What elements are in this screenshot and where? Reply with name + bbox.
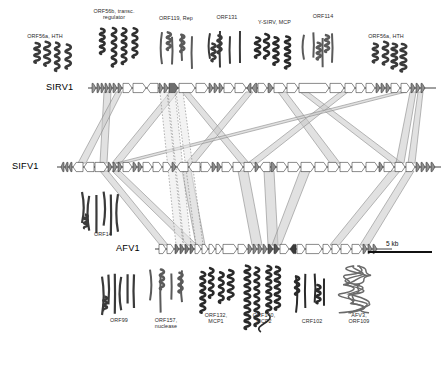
gene-arrow <box>153 162 162 171</box>
helix-ribbon <box>122 28 127 64</box>
scale-bar-label: 5 kb <box>386 240 398 247</box>
struct-orf56a-right <box>373 42 406 72</box>
gene-arrow <box>113 83 117 92</box>
helix-ribbon <box>200 272 205 313</box>
comparative-genome-figure: SIRV1SIFV1AFV1 ORF56a, HTHORF56b, transc… <box>0 0 448 380</box>
helix-ribbon <box>132 28 137 57</box>
beta-strand <box>120 277 122 310</box>
gene-arrow <box>315 162 327 171</box>
protein-label-y-sirv-mcp: Y-SIRV, MCP <box>247 19 302 25</box>
gene-arrow <box>65 162 68 171</box>
struct-orf99 <box>102 274 134 315</box>
struct-orf119 <box>161 32 192 69</box>
gene-arrow <box>352 162 365 171</box>
gene-arrow <box>345 83 355 92</box>
gene-arrow <box>172 162 176 171</box>
gene-arrow <box>381 83 385 92</box>
gene-arrow <box>340 162 351 171</box>
beta-strand <box>313 32 314 57</box>
protein-label-orf56b-transc-regulator: ORF56b, transc. regulator <box>82 8 146 20</box>
gene-arrow <box>180 244 184 253</box>
helix-ribbon <box>273 37 278 64</box>
helix-ribbon <box>266 266 271 312</box>
protein-structure-layer <box>34 28 406 332</box>
gene-arrow <box>196 83 208 92</box>
homology-ribbon <box>238 171 262 245</box>
gene-arrow <box>431 162 435 171</box>
gene-arrow <box>133 162 137 171</box>
gene-arrow <box>268 244 273 253</box>
gene-arrow <box>421 162 425 171</box>
gene-arrow <box>263 244 267 253</box>
gene-arrow <box>426 162 430 171</box>
gene-arrow <box>297 244 305 253</box>
gene-arrow <box>395 162 405 171</box>
gene-arrow <box>366 162 378 171</box>
gene-arrow <box>216 244 222 253</box>
gene-arrow <box>214 83 218 92</box>
gene-arrow <box>109 83 112 92</box>
gene-arrow <box>280 244 289 253</box>
helix-ribbon <box>285 37 290 69</box>
beta-strand <box>161 32 162 64</box>
gene-arrow <box>108 162 112 171</box>
helix-ribbon <box>209 268 213 298</box>
beta-strand <box>133 274 134 308</box>
beta-strand <box>172 37 173 65</box>
helix-ribbon <box>100 29 105 54</box>
gene-arrow <box>379 162 383 171</box>
gene-arrow <box>248 244 252 253</box>
gene-arrow <box>105 83 108 92</box>
genome-name-sirv1: SIRV1 <box>46 82 73 92</box>
gene-arrow <box>328 162 339 171</box>
gene-arrow <box>306 244 322 253</box>
gene-arrow <box>224 83 234 92</box>
struct-orf56b <box>100 28 137 66</box>
helix-ribbon <box>112 28 116 66</box>
gene-arrow <box>411 83 415 92</box>
gene-arrow <box>235 83 246 92</box>
gene-arrow <box>330 83 344 92</box>
gene-arrow <box>95 162 107 171</box>
gene-arrow <box>288 162 300 171</box>
helix-ribbon <box>167 32 171 49</box>
gene-arrow <box>366 83 375 92</box>
gene-arrow <box>247 83 251 92</box>
struct-afv3-orf109 <box>339 266 371 313</box>
homology-ribbon <box>272 171 310 245</box>
gene-arrow <box>301 162 314 171</box>
gene-arrow <box>416 83 420 92</box>
gene-arrow <box>252 83 257 92</box>
protein-label-orf132-mcp1: ORF132, MCP1 <box>195 312 237 324</box>
struct-crf102 <box>295 274 324 313</box>
helix-ribbon <box>228 270 234 299</box>
protein-label-orf157-nuclease: ORF157, nuclease <box>143 317 189 329</box>
struct-orf56a-left <box>34 42 70 71</box>
struct-orf131 <box>209 31 240 67</box>
protein-label-orf131: ORF131 <box>206 14 248 20</box>
gene-arrow <box>244 162 254 171</box>
gene-arrow <box>299 83 329 92</box>
protein-label-orf119-rep: ORF119, Rep <box>148 15 204 21</box>
struct-y-sirv-mcp <box>255 34 290 68</box>
gene-arrow <box>147 83 158 92</box>
gene-arrow <box>185 244 189 253</box>
gene-arrow <box>202 244 208 253</box>
homology-ribbon <box>78 92 122 163</box>
helix-ribbon <box>383 42 388 65</box>
struct-orf157 <box>150 270 183 313</box>
beta-strand <box>332 33 333 62</box>
helix-ribbon <box>66 45 71 69</box>
helix-ribbon <box>211 44 215 61</box>
gene-arrow <box>123 83 132 92</box>
gene-arrow <box>277 162 287 171</box>
helix-ribbon <box>219 272 224 302</box>
gene-arrow <box>164 83 168 92</box>
gene-arrow <box>169 83 178 92</box>
gene-arrow <box>201 162 211 171</box>
helix-ribbon <box>44 42 50 66</box>
protein-label-orf99: ORF99 <box>99 317 139 323</box>
gene-arrow <box>238 244 247 253</box>
protein-label-orf14: ORF14 <box>84 231 122 237</box>
gene-arrow <box>401 83 410 92</box>
